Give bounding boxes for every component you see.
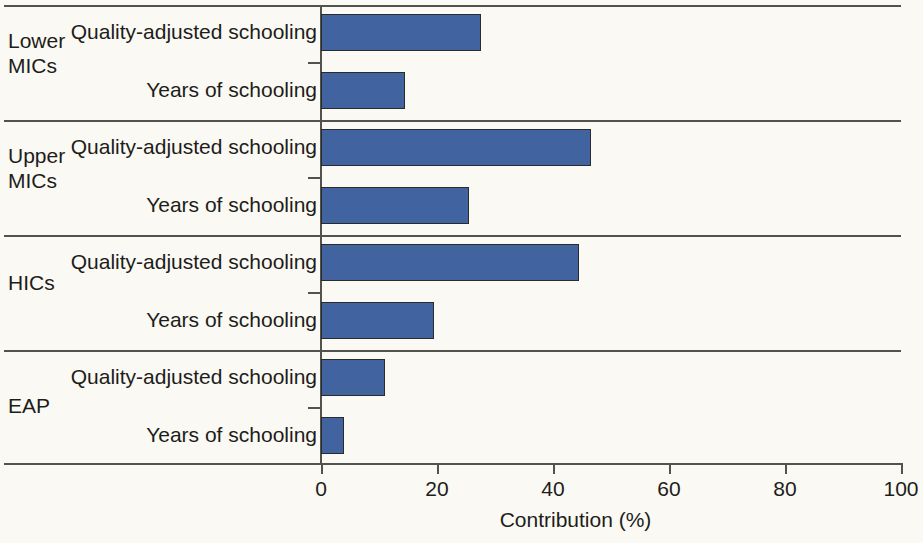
series-label-quality-adjusted-schooling: Quality-adjusted schooling	[71, 250, 317, 274]
bar-lower-mics-quality-adjusted-schooling	[321, 14, 481, 51]
series-label-quality-adjusted-schooling: Quality-adjusted schooling	[71, 135, 317, 159]
bar-hics-quality-adjusted-schooling	[321, 244, 579, 281]
x-tick-80	[785, 463, 787, 474]
x-tick-100	[901, 463, 903, 474]
series-label-years-of-schooling: Years of schooling	[146, 308, 317, 332]
value-axis	[4, 463, 901, 465]
x-tick-label-80: 80	[745, 476, 825, 502]
series-label-years-of-schooling: Years of schooling	[146, 193, 317, 217]
series-label-quality-adjusted-schooling: Quality-adjusted schooling	[71, 365, 317, 389]
x-tick-label-100: 100	[861, 476, 923, 502]
x-tick-label-20: 20	[397, 476, 477, 502]
x-tick-label-40: 40	[513, 476, 593, 502]
bar-upper-mics-quality-adjusted-schooling	[321, 129, 591, 166]
x-axis-title-wrap: Contribution (%)	[0, 508, 923, 532]
plot-area: Lower MICs Upper MICs HICs EAP Quality-a…	[0, 0, 923, 543]
bar-chart: Lower MICs Upper MICs HICs EAP Quality-a…	[0, 0, 923, 543]
bar-lower-mics-years-of-schooling	[321, 72, 405, 109]
x-axis-title: Contribution (%)	[500, 508, 652, 532]
group-separator-3	[4, 350, 901, 352]
group-separator-2	[4, 235, 901, 237]
bar-eap-quality-adjusted-schooling	[321, 359, 385, 396]
x-tick-20	[437, 463, 439, 474]
bar-hics-years-of-schooling	[321, 302, 434, 339]
series-label-years-of-schooling: Years of schooling	[146, 423, 317, 447]
x-tick-60	[669, 463, 671, 474]
x-tick-label-60: 60	[629, 476, 709, 502]
group-label-line2: MICs	[8, 168, 128, 193]
group-label-line1: EAP	[8, 393, 128, 418]
x-tick-40	[553, 463, 555, 474]
series-label-years-of-schooling: Years of schooling	[146, 78, 317, 102]
bar-upper-mics-years-of-schooling	[321, 187, 469, 224]
x-tick-0	[321, 463, 323, 474]
group-label-eap: EAP	[8, 393, 128, 418]
bar-eap-years-of-schooling	[321, 417, 344, 454]
group-separator-top	[4, 5, 901, 7]
series-label-quality-adjusted-schooling: Quality-adjusted schooling	[71, 20, 317, 44]
x-tick-label-0: 0	[281, 476, 361, 502]
group-separator-1	[4, 120, 901, 122]
group-label-line2: MICs	[8, 53, 128, 78]
